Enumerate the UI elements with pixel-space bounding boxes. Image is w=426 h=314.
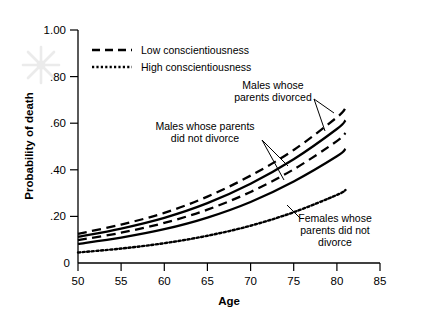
annotation-males-divorced-line-1: Males whose [242,79,303,91]
y-tick-label-0: 0 [64,257,70,269]
y-tick-label-5: 1.00 [44,24,66,36]
annotation-females-line-1: Females whose [298,212,372,224]
x-tick-label-3: 65 [201,275,214,287]
y-axis-ticks [70,30,78,216]
x-axis-tick-labels: 50 55 60 65 70 75 80 85 [72,275,387,287]
x-tick-label-2: 60 [158,275,171,287]
x-axis-title: Age [218,295,240,307]
x-tick-label-0: 50 [72,275,85,287]
y-axis-tick-labels: 1.00 .80 .60 .40 .20 0 [44,24,70,269]
x-axis-ticks [78,263,380,271]
x-tick-label-5: 75 [287,275,300,287]
annotation-females-parents-not-divorced: Females whose parents did not divorce [287,205,372,248]
legend-label-low-conscientiousness: Low conscientiousness [141,44,249,56]
chart-svg: 1.00 .80 .60 .40 .20 0 50 55 60 65 70 75… [0,0,426,314]
annotation-males-parents-not-divorced: Males whose parents did not divorce [155,120,288,180]
annotation-females-line-2: parents did not [300,224,370,236]
x-tick-label-7: 85 [374,275,387,287]
annotation-males-divorced-line-2: parents divorced [234,91,312,103]
x-tick-label-4: 70 [244,275,257,287]
annotation-females-line-3: divorce [318,236,352,248]
y-tick-label-1: .20 [50,210,66,222]
x-tick-label-1: 55 [115,275,128,287]
x-tick-label-6: 80 [331,275,344,287]
legend: Low conscientiousness High conscientious… [92,44,251,73]
y-axis-title: Probability of death [23,92,35,199]
y-tick-label-4: .80 [50,71,66,83]
annotation-males-not-divorced-line-1: Males whose parents [155,120,254,132]
legend-label-high-conscientiousness: High conscientiousness [141,61,251,73]
figure-container: 1.00 .80 .60 .40 .20 0 50 55 60 65 70 75… [0,0,426,314]
y-tick-label-3: .60 [50,117,66,129]
annotation-males-not-divorced-line-2: did not divorce [171,132,239,144]
y-tick-label-2: .40 [50,164,66,176]
